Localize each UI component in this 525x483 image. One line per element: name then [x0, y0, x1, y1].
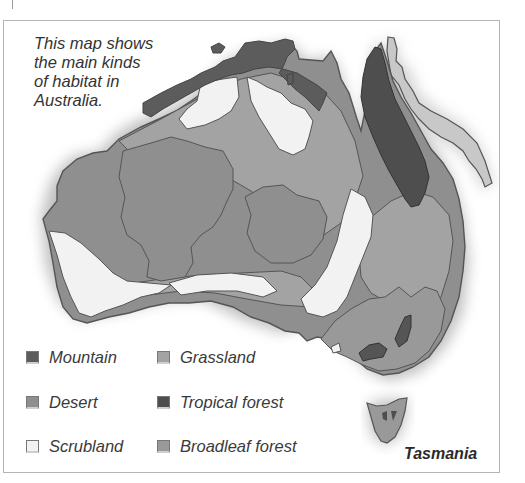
island-groote: [287, 73, 293, 85]
legend-item-mountain: Mountain: [26, 348, 117, 367]
tropical-forest-swatch-icon: [157, 396, 170, 409]
caption-line-4: Australia.: [34, 91, 184, 110]
legend-item-grassland: Grassland: [157, 348, 255, 367]
legend-label: Scrubland: [49, 437, 123, 456]
grassland-swatch-icon: [157, 351, 170, 364]
broadleaf-forest-swatch-icon: [157, 440, 170, 453]
legend-item-broadleaf-forest: Broadleaf forest: [157, 437, 296, 456]
caption-line-2: the main kinds: [34, 53, 184, 72]
mountain-swatch-icon: [26, 351, 39, 364]
island-melville: [211, 43, 225, 53]
legend-label: Mountain: [49, 348, 117, 367]
margin-tick: [12, 0, 13, 9]
caption-line-3: of habitat in: [34, 72, 184, 91]
legend-item-desert: Desert: [26, 393, 98, 412]
tasmania-label: Tasmania: [404, 445, 477, 463]
legend-label: Desert: [49, 393, 98, 412]
legend-label: Broadleaf forest: [180, 437, 296, 456]
map-frame: This map shows the main kinds of habitat…: [3, 20, 500, 473]
legend-label: Tropical forest: [180, 393, 283, 412]
desert-swatch-icon: [26, 396, 39, 409]
legend-item-scrubland: Scrubland: [26, 437, 123, 456]
scrubland-swatch-icon: [26, 440, 39, 453]
caption-line-1: This map shows: [34, 34, 184, 53]
legend-label: Grassland: [180, 348, 255, 367]
legend-item-tropical-forest: Tropical forest: [157, 393, 283, 412]
map-caption: This map shows the main kinds of habitat…: [34, 34, 184, 110]
